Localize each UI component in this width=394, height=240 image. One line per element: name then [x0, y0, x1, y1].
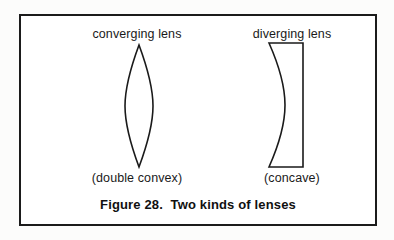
biconvex-lens-svg: [104, 42, 174, 170]
plano-concave-lens-shape: [247, 40, 317, 170]
biconvex-lens-shape: [104, 42, 174, 170]
concave-label: (concave): [217, 171, 367, 185]
plano-concave-lens-outline: [269, 43, 303, 167]
diverging-lens-label: diverging lens: [217, 27, 367, 41]
double-convex-label: (double convex): [57, 171, 217, 185]
biconvex-lens-outline: [125, 45, 153, 167]
plano-concave-lens-svg: [247, 40, 317, 170]
figure-page: converging lens diverging lens (double c…: [0, 0, 394, 240]
figure-border-frame: converging lens diverging lens (double c…: [19, 14, 377, 226]
figure-caption: Figure 28. Two kinds of lenses: [21, 197, 375, 212]
converging-lens-label: converging lens: [57, 27, 217, 41]
